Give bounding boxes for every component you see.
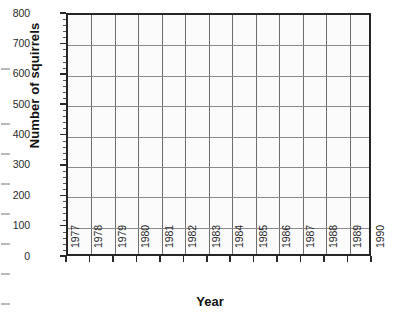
y-axis-tick-label: 800 xyxy=(0,8,30,19)
y-axis-minor-tick xyxy=(63,128,67,129)
gridline-horizontal xyxy=(68,76,369,77)
gridline-vertical xyxy=(162,15,163,254)
x-axis-tick xyxy=(276,256,278,262)
y-axis-minor-tick xyxy=(63,92,67,93)
y-axis-minor-tick xyxy=(63,56,67,57)
edge-artifact-mark xyxy=(1,68,10,70)
gridline-vertical xyxy=(209,15,210,254)
y-axis-minor-tick xyxy=(63,141,67,142)
x-axis-tick xyxy=(229,256,231,262)
x-axis-tick xyxy=(253,256,255,262)
x-axis-tick-label: 1989 xyxy=(352,225,363,265)
gridline-vertical xyxy=(91,15,92,254)
x-axis-tick xyxy=(370,256,372,262)
y-axis-minor-tick xyxy=(63,153,67,154)
y-axis-minor-tick xyxy=(63,122,67,123)
gridline-vertical xyxy=(185,15,186,254)
gridline-vertical xyxy=(350,15,351,254)
gridline-horizontal xyxy=(68,106,369,107)
x-axis-tick-label: 1987 xyxy=(305,225,316,265)
x-axis-tick-label: 1980 xyxy=(140,225,151,265)
y-axis-minor-tick xyxy=(63,238,67,239)
y-axis-minor-tick xyxy=(63,116,67,117)
edge-artifact-mark xyxy=(1,243,10,245)
gridline-horizontal xyxy=(68,167,369,168)
y-axis-minor-tick xyxy=(63,250,67,251)
x-axis-tick-label: 1977 xyxy=(70,225,81,265)
gridline-vertical xyxy=(232,15,233,254)
y-axis-minor-tick xyxy=(63,80,67,81)
x-axis-tick-label: 1986 xyxy=(281,225,292,265)
x-axis-tick xyxy=(300,256,302,262)
gridline-vertical xyxy=(326,15,327,254)
gridline-horizontal xyxy=(68,45,369,46)
x-axis-tick xyxy=(206,256,208,262)
y-axis-minor-tick xyxy=(63,201,67,202)
x-axis-tick-label: 1985 xyxy=(258,225,269,265)
y-axis-minor-tick xyxy=(63,31,67,32)
x-axis-tick-label: 1982 xyxy=(187,225,198,265)
gridline-horizontal xyxy=(68,197,369,198)
edge-artifact-mark xyxy=(1,303,10,305)
x-axis-tick-label: 1988 xyxy=(328,225,339,265)
x-axis-tick xyxy=(136,256,138,262)
y-axis-minor-tick xyxy=(63,159,67,160)
y-axis-minor-tick xyxy=(63,171,67,172)
y-axis-tick-label: 600 xyxy=(0,68,30,79)
y-axis-minor-tick xyxy=(63,207,67,208)
x-axis-tick-label: 1978 xyxy=(93,225,104,265)
y-axis-minor-tick xyxy=(63,62,67,63)
gridline-vertical xyxy=(256,15,257,254)
gridline-horizontal xyxy=(68,137,369,138)
x-axis-tick xyxy=(89,256,91,262)
y-axis-tick-label: 400 xyxy=(0,129,30,140)
y-axis-tick-label: 700 xyxy=(0,38,30,49)
y-axis-minor-tick xyxy=(63,244,67,245)
x-axis-tick xyxy=(159,256,161,262)
squirrel-population-chart: 0100200300400500600700800 Number of squi… xyxy=(0,0,397,316)
gridline-vertical xyxy=(138,15,139,254)
x-axis-tick xyxy=(183,256,185,262)
gridline-vertical xyxy=(279,15,280,254)
y-axis-minor-tick xyxy=(63,189,67,190)
y-axis-major-tick xyxy=(60,43,66,45)
y-axis-major-tick xyxy=(60,195,66,197)
y-axis-minor-tick xyxy=(63,86,67,87)
y-axis-minor-tick xyxy=(63,220,67,221)
y-axis-major-tick xyxy=(60,103,66,105)
x-axis-tick xyxy=(347,256,349,262)
gridline-vertical xyxy=(115,15,116,254)
y-axis-minor-tick xyxy=(63,213,67,214)
x-axis-tick-label: 1981 xyxy=(164,225,175,265)
y-axis-major-tick xyxy=(60,73,66,75)
x-axis-tick-label: 1990 xyxy=(375,225,386,265)
x-axis-tick-label: 1983 xyxy=(211,225,222,265)
edge-artifact-mark xyxy=(1,183,10,185)
y-axis-minor-tick xyxy=(63,177,67,178)
y-axis-major-tick xyxy=(60,12,66,14)
y-axis-minor-tick xyxy=(63,49,67,50)
y-axis-minor-tick xyxy=(63,68,67,69)
y-axis-minor-tick xyxy=(63,183,67,184)
plot-area xyxy=(66,13,371,256)
edge-artifact-mark xyxy=(1,123,10,125)
y-axis-major-tick xyxy=(60,134,66,136)
y-axis-tick-label: 200 xyxy=(0,190,30,201)
y-axis-tick-label: 300 xyxy=(0,159,30,170)
gridline-vertical xyxy=(303,15,304,254)
y-axis-tick-label: 500 xyxy=(0,99,30,110)
y-axis-minor-tick xyxy=(63,98,67,99)
x-axis-tick xyxy=(112,256,114,262)
x-axis-tick xyxy=(65,256,67,262)
y-axis-minor-tick xyxy=(63,232,67,233)
edge-artifact-mark xyxy=(1,153,10,155)
edge-artifact-mark xyxy=(1,213,10,215)
x-axis-tick xyxy=(323,256,325,262)
x-axis-tick-label: 1979 xyxy=(117,225,128,265)
y-axis-minor-tick xyxy=(63,147,67,148)
y-axis-minor-tick xyxy=(63,19,67,20)
y-axis-title: Number of squirrels xyxy=(27,0,42,186)
y-axis-major-tick xyxy=(60,225,66,227)
x-axis-title: Year xyxy=(0,294,397,309)
x-axis-tick-label: 1984 xyxy=(234,225,245,265)
